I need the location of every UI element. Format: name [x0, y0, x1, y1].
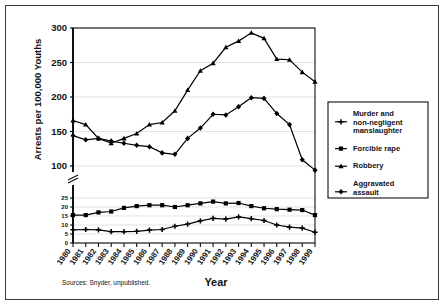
- legend-label: manslaughter: [353, 126, 402, 135]
- y-tick-label: 15: [61, 213, 68, 219]
- data-series: [70, 30, 317, 235]
- legend-label: assault: [353, 188, 379, 197]
- legend-label: Robbery: [353, 161, 384, 170]
- legend[interactable]: Murder andnon-negligentmanslaughterForci…: [328, 102, 428, 198]
- series-robbery: [70, 30, 317, 145]
- line-chart-svg: 1001502002503000510152025198019811982198…: [6, 6, 436, 298]
- y-tick-label: 200: [51, 91, 67, 102]
- series-murder-and-non-negligent-manslaughter: [70, 214, 317, 235]
- y-tick-label: 100: [51, 160, 67, 171]
- y-tick-label: 150: [51, 126, 67, 137]
- series-aggravated-assault: [71, 95, 318, 173]
- y-tick-label: 20: [61, 204, 68, 210]
- y-tick-label: 0: [65, 240, 69, 246]
- figure-frame: 1001502002503000510152025198019811982198…: [5, 5, 439, 300]
- y-tick-label: 25: [61, 195, 68, 201]
- y-tick-label: 10: [61, 222, 68, 228]
- chart-page: 1001502002503000510152025198019811982198…: [0, 0, 446, 307]
- x-tick-label: 1999: [297, 247, 315, 267]
- y-tick-label: 300: [51, 22, 67, 33]
- legend-label: Forcible rape: [353, 144, 400, 153]
- series-forcible-rape: [71, 200, 317, 218]
- y-tick-label: 250: [51, 57, 67, 68]
- y-tick-label: 5: [65, 231, 69, 237]
